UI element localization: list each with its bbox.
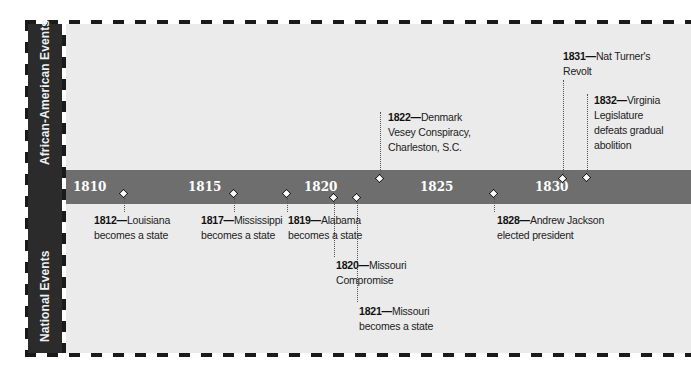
side-label-african-american: African-American Events	[38, 20, 52, 165]
event-1819: 1819—Alabama becomes a state	[288, 213, 362, 243]
event-1832: 1832—Virginia Legislature defeats gradua…	[594, 93, 663, 153]
connector-1812	[124, 198, 125, 212]
year-label-1825: 1825	[420, 180, 453, 194]
event-1821: 1821—Missouri becomes a state	[359, 304, 433, 334]
top-dashed-border	[25, 20, 691, 24]
connector-1819	[287, 198, 288, 212]
year-label-1810: 1810	[73, 180, 106, 194]
event-1812: 1812—Louisiana becomes a state	[94, 213, 170, 243]
event-1822: 1822—Denmark Vesey Conspiracy, Charlesto…	[388, 110, 471, 155]
event-1828: 1828—Andrew Jackson elected president	[497, 213, 604, 243]
event-1820: 1820—Missouri Compromise	[336, 258, 406, 288]
connector-1817	[234, 198, 235, 212]
connector-1828	[494, 198, 495, 212]
bottom-dashed-border	[25, 353, 691, 357]
left-dashed-border	[25, 20, 28, 357]
connector-1832	[587, 94, 588, 176]
side-label-national: National Events	[38, 250, 52, 342]
connector-1822	[380, 112, 381, 178]
event-1817: 1817—Mississippi becomes a state	[201, 213, 282, 243]
year-label-1815: 1815	[188, 180, 221, 194]
event-1831: 1831—Nat Turner's Revolt	[563, 49, 650, 79]
connector-1831	[563, 80, 564, 178]
